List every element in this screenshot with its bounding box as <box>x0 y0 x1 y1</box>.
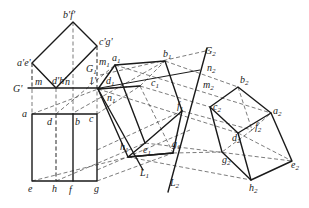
label-m: m <box>35 76 42 87</box>
label-c1: c1 <box>151 77 159 90</box>
label-G-prime: G' <box>13 83 23 94</box>
label-a1: a1 <box>112 52 121 65</box>
label-m2: m2 <box>203 79 214 92</box>
projection-lines <box>32 22 292 181</box>
label-g: g <box>94 183 99 194</box>
svg-text:a2: a2 <box>273 105 282 118</box>
svg-text:m1: m1 <box>99 56 110 69</box>
svg-text:n2: n2 <box>207 62 216 75</box>
top-view <box>32 114 97 181</box>
label-bf: b'f' <box>63 9 76 20</box>
auxiliary-view-1 <box>98 48 207 192</box>
label-a: a <box>22 108 27 119</box>
auxiliary-view-2 <box>210 87 292 180</box>
svg-text:G2: G2 <box>205 45 216 58</box>
svg-text:L2: L2 <box>169 177 180 190</box>
label-cg: c'g' <box>99 36 114 47</box>
svg-text:L1: L1 <box>139 167 149 180</box>
label-1-prime: 1' <box>89 75 97 86</box>
label-b2: b2 <box>240 74 249 87</box>
label-h: h <box>52 183 57 194</box>
label-e: e <box>28 183 33 194</box>
label-ae: a'e' <box>17 57 32 68</box>
label-b1: b1 <box>163 48 172 61</box>
svg-text:d1: d1 <box>106 75 115 88</box>
label-a2: a2 <box>273 105 282 118</box>
svg-text:f2: f2 <box>255 121 262 134</box>
label-e2: e2 <box>291 159 299 172</box>
label-L1: L1 <box>139 167 149 180</box>
svg-text:b1: b1 <box>163 48 172 61</box>
svg-text:b2: b2 <box>240 74 249 87</box>
label-d: d <box>47 116 53 127</box>
label-m1: m1 <box>99 56 110 69</box>
label-g2: g2 <box>222 154 231 167</box>
label-d1: d1 <box>106 75 115 88</box>
label-b: b <box>75 116 80 127</box>
svg-text:h2: h2 <box>249 182 258 195</box>
label-n: n <box>65 76 70 87</box>
svg-text:f1: f1 <box>177 100 183 113</box>
label-n2: n2 <box>207 62 216 75</box>
svg-text:e2: e2 <box>291 159 299 172</box>
svg-text:c2: c2 <box>213 101 221 114</box>
svg-text:m2: m2 <box>203 79 214 92</box>
label-f: f <box>69 184 73 195</box>
svg-text:g2: g2 <box>222 154 231 167</box>
label-h2: h2 <box>249 182 258 195</box>
label-c2: c2 <box>213 101 221 114</box>
label-f1: f1 <box>177 100 183 113</box>
svg-text:a1: a1 <box>112 52 121 65</box>
label-f2: f2 <box>255 121 262 134</box>
label-G2: G2 <box>205 45 216 58</box>
projection-diagram: b'f' c'g' a'e' d'h' m n G' 1' a d b c e … <box>0 0 309 208</box>
label-c: c <box>89 113 94 124</box>
svg-text:c1: c1 <box>151 77 159 90</box>
label-L2: L2 <box>169 177 180 190</box>
